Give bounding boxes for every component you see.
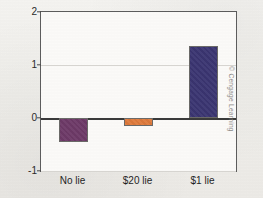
copyright-credit: © Cengage Learning (228, 66, 235, 131)
gridline (41, 171, 236, 172)
y-tick-label: 2 (31, 7, 37, 17)
figure-canvas: Enjoyment rating 210-1 No lie$20 lie$1 l… (0, 0, 263, 198)
y-tick-mark (37, 170, 41, 171)
y-tick-mark (37, 64, 41, 65)
x-axis-label: $1 lie (191, 176, 215, 186)
bar-1-lie (189, 46, 219, 118)
plot-area: 210-1 (40, 11, 237, 172)
y-tick-mark (37, 117, 41, 118)
y-tick-label: 1 (31, 60, 37, 70)
y-tick-mark (37, 11, 41, 12)
x-axis-label: No lie (60, 176, 86, 186)
x-axis-label: $20 lie (123, 176, 152, 186)
bar-no-lie (59, 118, 89, 142)
y-tick-label: -1 (28, 166, 37, 176)
bar-20-lie (124, 118, 154, 126)
y-tick-label: 0 (31, 113, 37, 123)
